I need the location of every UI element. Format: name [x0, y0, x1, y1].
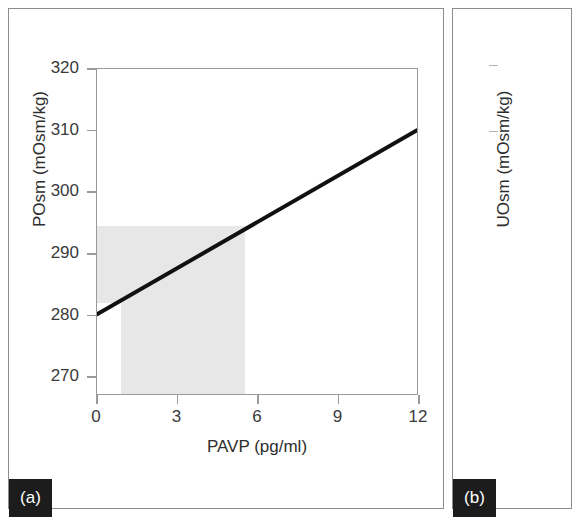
y-axis-tick-b: [489, 65, 498, 66]
y-tick-mark: [87, 68, 96, 70]
x-tick-mark: [418, 395, 420, 404]
y-tick-label: 290: [33, 243, 79, 263]
x-tick-label: 6: [237, 407, 277, 427]
regression-line-svg: [97, 69, 417, 394]
y-tick-mark: [87, 376, 96, 378]
x-tick-label: 12: [398, 407, 438, 427]
y-tick-mark: [87, 253, 96, 255]
y-tick-mark: [87, 315, 96, 317]
y-tick-label: 270: [33, 366, 79, 386]
y-axis-tick-b: [489, 131, 498, 132]
panel-a: POsm (mOsm/kg) 270280290300310320 036912…: [8, 8, 444, 509]
y-tick-mark: [87, 130, 96, 132]
y-tick-mark: [87, 191, 96, 193]
x-tick-label: 0: [76, 407, 116, 427]
x-tick-mark: [96, 395, 98, 404]
x-tick-mark: [177, 395, 179, 404]
y-tick-label: 320: [33, 58, 79, 78]
x-tick-mark: [257, 395, 259, 404]
x-tick-mark: [338, 395, 340, 404]
chart-panel-a: POsm (mOsm/kg) 270280290300310320 036912…: [9, 9, 445, 510]
y-axis-title-b: UOsm (mOsm/kg): [494, 44, 514, 274]
x-tick-label: 3: [157, 407, 197, 427]
x-axis-title-a: PAVP (pg/ml): [96, 437, 418, 457]
panel-label-b: (b): [453, 479, 496, 517]
plot-area-a: [96, 68, 418, 395]
y-tick-label: 300: [33, 181, 79, 201]
regression-line: [97, 130, 417, 314]
panel-b: UOsm (mOsm/kg): [452, 8, 572, 509]
y-tick-label: 310: [33, 120, 79, 140]
panel-label-a: (a): [9, 479, 52, 517]
y-tick-label: 280: [33, 305, 79, 325]
x-tick-label: 9: [318, 407, 358, 427]
y-axis-title-a: POsm (mOsm/kg): [30, 44, 50, 274]
